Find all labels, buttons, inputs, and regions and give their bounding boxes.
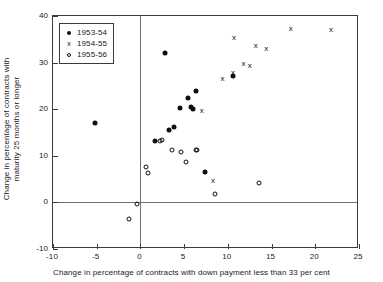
data-point [177,106,182,111]
y-tick-label: 10 [30,150,48,159]
y-tick-label: 20 [30,104,48,113]
data-point: x [263,43,270,52]
legend-label-1955-56: 1955-56 [77,50,107,59]
y-tick-label: -10 [30,244,48,253]
data-point: x [219,73,226,82]
x-tick-label: -5 [92,252,99,261]
y-tick-label: 0 [30,197,48,206]
cross-marker-icon: x [64,40,74,47]
data-point [146,171,151,176]
x-tick-label: 25 [353,252,362,261]
data-point: x [287,23,294,32]
data-point [178,149,183,154]
zero-line-horizontal [53,202,357,203]
y-tick [53,202,58,203]
x-tick-label: 5 [181,252,186,261]
y-tick [53,249,58,250]
data-point [183,159,188,164]
legend-item-1955-56: 1955-56 [64,49,107,60]
x-tick-label: 0 [137,252,142,261]
scatter-chart-figure: Change in percentage of contracts with m… [0,0,383,282]
chart-legend: 1953-54 x 1954-55 1955-56 [59,23,114,64]
data-point [195,147,200,152]
data-point [257,181,262,186]
y-tick-label: 30 [30,57,48,66]
x-tick [97,244,98,249]
x-tick [272,244,273,249]
data-point [143,164,148,169]
x-tick-label: 15 [266,252,275,261]
data-point [162,51,167,56]
data-point [190,107,195,112]
data-point: x [246,61,253,70]
y-axis-label-line2: maturity 25 months or longer [12,77,21,182]
filled-circle-icon [64,31,74,35]
zero-line-vertical [140,16,141,247]
legend-label-1954-55: 1954-55 [77,39,107,48]
data-point: x [230,32,237,41]
x-tick-label: -10 [46,252,58,261]
legend-item-1954-55: x 1954-55 [64,38,107,49]
x-tick-label: 20 [310,252,319,261]
y-axis-label-container: Change in percentage of contracts with m… [0,0,24,258]
data-point [212,192,217,197]
plot-area: xxxxxxxxxxx 1953-54 x 1954-55 1955-56 [52,15,358,248]
open-circle-icon [64,53,74,57]
data-point: x [198,106,205,115]
x-tick [228,244,229,249]
data-point [160,138,165,143]
data-point [134,201,139,206]
legend-item-1953-54: 1953-54 [64,27,107,38]
y-tick [53,156,58,157]
data-point: x [230,67,237,76]
y-tick [53,16,58,17]
data-point [185,96,190,101]
x-tick [184,244,185,249]
data-point [169,147,174,152]
data-point: x [209,175,216,184]
y-tick-label: 40 [30,11,48,20]
data-point: x [328,25,335,34]
x-axis-label: Change in percentage of contracts with d… [0,268,383,277]
data-point [127,217,132,222]
x-tick-label: 10 [222,252,231,261]
y-tick [53,109,58,110]
data-point: x [252,41,259,50]
x-tick [140,244,141,249]
x-tick [359,244,360,249]
y-axis-label: Change in percentage of contracts with m… [2,58,22,201]
data-point [203,169,208,174]
data-point [193,88,198,93]
y-tick [53,63,58,64]
legend-label-1953-54: 1953-54 [77,28,107,37]
data-point [92,121,97,126]
data-point [171,124,176,129]
x-tick [315,244,316,249]
y-axis-label-line1: Change in percentage of contracts with [2,58,11,201]
